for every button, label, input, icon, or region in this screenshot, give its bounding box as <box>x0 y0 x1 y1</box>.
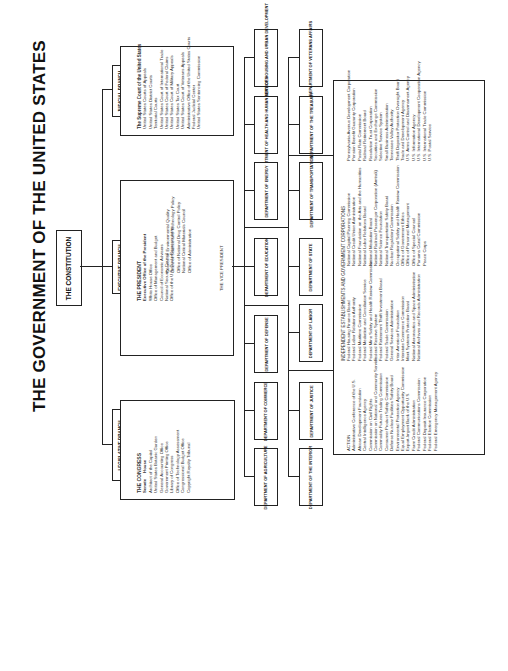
executive-branch-box: THE PRESIDENT Executive Office of the Pr… <box>120 180 234 356</box>
independent-agency: Federal Emergency Management Agency <box>433 358 438 451</box>
dept-justice: DEPARTMENT OF JUSTICE <box>299 382 323 440</box>
independent-agency: Peace Corps <box>422 165 427 266</box>
dept-transportation: DEPARTMENT OF TRANSPORTATION <box>299 162 323 220</box>
dept-state: DEPARTMENT OF STATE <box>299 238 323 296</box>
independent-agency: National Archives and Records Administra… <box>416 260 421 361</box>
dept-defense: DEPARTMENT OF DEFENSE <box>254 315 278 373</box>
dept-hhs: DEPARTMENT OF HEALTH AND HUMAN SERVICES <box>254 96 278 154</box>
constitution-box: THE CONSTITUTION <box>56 230 82 306</box>
dept-agriculture: DEPARTMENT OF AGRICULTURE <box>254 448 278 506</box>
dept-interior: DEPARTMENT OF THE INTERIOR <box>299 448 323 506</box>
dept-labor: DEPARTMENT OF LABOR <box>299 304 323 362</box>
judicial-branch-box: The Supreme Court of the United States U… <box>120 46 234 136</box>
dept-energy: DEPARTMENT OF ENERGY <box>254 162 278 220</box>
chart-title: THE GOVERNMENT OF THE UNITED STATES <box>30 40 50 412</box>
independent-agency: U.S. Postal Service <box>427 61 432 161</box>
dept-education: DEPARTMENT OF EDUCATION <box>254 238 278 296</box>
independent-establishments-box: INDEPENDENT ESTABLISHMENTS AND GOVERNMEN… <box>333 80 485 455</box>
dept-commerce: DEPARTMENT OF COMMERCE <box>254 382 278 440</box>
independent-agency: U.S. International Development Cooperati… <box>416 61 421 161</box>
legislative-branch-box: THE CONGRESS Senate House Architect of t… <box>120 400 235 500</box>
dept-veterans-affairs: DEPARTMENT OF VETERANS AFFAIRS <box>299 29 323 87</box>
dept-treasury: DEPARTMENT OF THE TREASURY <box>299 96 323 154</box>
